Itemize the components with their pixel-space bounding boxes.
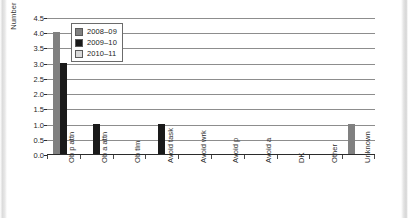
y-tick-label: 1.0 — [22, 120, 44, 129]
y-tick-label: 2.0 — [22, 90, 44, 99]
gridline — [47, 79, 375, 80]
legend-item[interactable]: 2008–09 — [75, 26, 117, 37]
x-tick-label: DK — [297, 152, 306, 163]
y-tick-mark — [44, 109, 47, 110]
y-tick-label: 4.5 — [22, 14, 44, 23]
gridline — [47, 18, 375, 19]
x-tick-label: Avoid wrk — [199, 130, 208, 163]
chart-legend: 2008–092009–102010–11 — [71, 23, 123, 62]
x-tick-label: Unknown — [363, 131, 372, 163]
page-edge-shadow-right — [401, 0, 408, 218]
legend-label: 2008–09 — [87, 27, 117, 36]
y-tick-mark — [44, 33, 47, 34]
gridline — [47, 109, 375, 110]
x-tick-label: Avoid task — [166, 128, 175, 163]
y-tick-label: 0.0 — [22, 151, 44, 160]
y-tick-mark — [44, 125, 47, 126]
y-tick-label: 4.0 — [22, 29, 44, 38]
page-edge-shadow-left — [0, 0, 7, 218]
x-tick-label: Ob a attn — [100, 132, 109, 163]
y-tick-mark — [44, 140, 47, 141]
y-tick-label: 0.5 — [22, 135, 44, 144]
y-tick-label: 1.5 — [22, 105, 44, 114]
bar — [53, 32, 60, 154]
legend-swatch-icon — [75, 50, 83, 58]
y-tick-mark — [44, 79, 47, 80]
y-tick-mark — [44, 94, 47, 95]
y-tick-mark — [44, 64, 47, 65]
chart-figure: Number of Referrals 4.54.03.53.02.52.01.… — [0, 0, 408, 218]
bar — [348, 124, 355, 154]
bar — [60, 63, 67, 154]
legend-item[interactable]: 2010–11 — [75, 48, 117, 59]
legend-swatch-icon — [75, 28, 83, 36]
x-tick-label: Ob p attn — [67, 132, 76, 163]
legend-label: 2010–11 — [87, 49, 116, 58]
legend-label: 2009–10 — [87, 38, 117, 47]
legend-item[interactable]: 2009–10 — [75, 37, 117, 48]
legend-swatch-icon — [75, 39, 83, 47]
y-tick-label: 3.0 — [22, 59, 44, 68]
y-tick-mark — [44, 18, 47, 19]
x-tick-label: Ob tlm — [133, 141, 142, 163]
y-tick-label: 2.5 — [22, 74, 44, 83]
x-tick-label: Avoid a — [264, 138, 273, 163]
y-tick-label: 3.5 — [22, 44, 44, 53]
bar — [93, 124, 100, 154]
x-axis-tick-labels: Ob p attnOb a attnOb tlmAvoid taskAvoid … — [47, 155, 375, 218]
gridline — [47, 64, 375, 65]
y-axis-title: Number of Referrals — [9, 0, 21, 50]
bar — [158, 124, 165, 154]
x-tick-label: Other — [330, 144, 339, 163]
y-tick-mark — [44, 48, 47, 49]
gridline — [47, 94, 375, 95]
y-axis-tick-labels: 4.54.03.53.02.52.01.51.00.50.0 — [22, 0, 44, 218]
x-tick-label: Avoid p — [231, 138, 240, 163]
